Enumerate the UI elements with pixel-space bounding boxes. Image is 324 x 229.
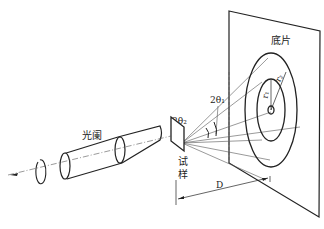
two-theta-1-label: 2θ₁ xyxy=(210,95,225,105)
collimator-label: 光阑 xyxy=(82,129,102,141)
angle-arc-1 xyxy=(214,122,217,136)
diagram-canvas: r₁ r₂ 底片 2θ₁ 2θ₂ 试 样 光阑 D xyxy=(0,0,324,229)
collimator xyxy=(60,126,162,179)
distance-label: D xyxy=(216,180,223,190)
r2-label: r₂ xyxy=(274,73,285,84)
r1-label: r₁ xyxy=(261,91,271,99)
sample-label-1: 试 xyxy=(178,155,188,167)
angle-arc-2 xyxy=(206,128,209,138)
sample-label-2: 样 xyxy=(178,168,188,180)
film-label: 底片 xyxy=(271,34,291,46)
diffraction-diagram: r₁ r₂ 底片 2θ₁ 2θ₂ 试 样 光阑 D xyxy=(0,0,324,229)
rotation-icon xyxy=(36,160,46,184)
